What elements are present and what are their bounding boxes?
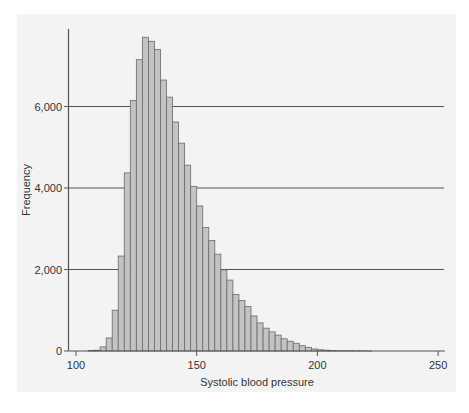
- histogram-bar: [257, 323, 263, 351]
- x-tick-label: 200: [308, 359, 326, 371]
- histogram-bar: [142, 37, 148, 351]
- histogram-bar: [227, 280, 233, 351]
- x-tick-label: 150: [188, 359, 206, 371]
- histogram-bar: [179, 143, 185, 351]
- y-tick-label: 4,000: [34, 182, 62, 194]
- histogram-bar: [191, 186, 197, 351]
- histogram-bar: [221, 270, 227, 351]
- histogram-bar: [299, 346, 305, 351]
- histogram-bar: [209, 241, 215, 351]
- histogram-bar: [245, 307, 251, 351]
- histogram-bar: [197, 206, 203, 351]
- histogram-bar: [215, 254, 221, 351]
- histogram-bar: [275, 335, 281, 351]
- histogram-bar: [167, 97, 173, 351]
- histogram-bar: [112, 310, 118, 351]
- x-axis-title: Systolic blood pressure: [200, 376, 314, 388]
- histogram-chart: 02,0004,0006,000 100150200250 Systolic b…: [0, 0, 469, 413]
- x-ticks: 100150200250: [67, 351, 447, 371]
- histogram-bar: [130, 100, 136, 351]
- histogram-bar: [251, 316, 257, 351]
- y-tick-label: 6,000: [34, 101, 62, 113]
- y-ticks: 02,0004,0006,000: [34, 101, 68, 358]
- histogram-bar: [269, 332, 275, 351]
- histogram-bar: [136, 60, 142, 351]
- histogram-bars: [88, 37, 372, 351]
- histogram-bar: [281, 339, 287, 351]
- y-tick-label: 0: [56, 345, 62, 357]
- histogram-bar: [160, 80, 166, 351]
- histogram-bar: [124, 173, 130, 351]
- histogram-bar: [154, 49, 160, 351]
- histogram-bar: [233, 294, 239, 351]
- histogram-bar: [106, 338, 112, 351]
- histogram-bar: [293, 343, 299, 351]
- histogram-bar: [173, 122, 179, 351]
- histogram-bar: [203, 228, 209, 351]
- histogram-bar: [148, 41, 154, 351]
- histogram-bar: [100, 347, 106, 351]
- histogram-bar: [118, 256, 124, 351]
- histogram-bar: [185, 165, 191, 351]
- y-axis-title: Frequency: [20, 164, 32, 216]
- histogram-bar: [263, 328, 269, 351]
- histogram-bar: [287, 341, 293, 351]
- histogram-bar: [239, 300, 245, 351]
- x-tick-label: 250: [429, 359, 447, 371]
- y-tick-label: 2,000: [34, 264, 62, 276]
- x-tick-label: 100: [67, 359, 85, 371]
